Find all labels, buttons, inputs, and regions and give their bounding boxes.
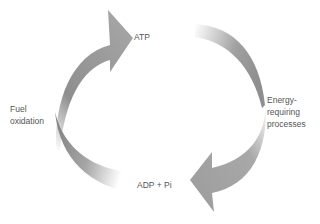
node-adp-pi: ADP + Pi (137, 179, 172, 191)
arc-bottom-left (55, 112, 132, 193)
node-fuel-oxidation: Fuel oxidation (10, 103, 44, 127)
label-line: requiring (267, 106, 306, 118)
arrow-down-right (190, 100, 266, 212)
label-line: oxidation (10, 115, 44, 127)
arrow-up-left (56, 10, 133, 150)
label-line: Fuel (10, 103, 44, 115)
node-energy-requiring: Energy- requiring processes (267, 94, 306, 130)
arc-top-right (195, 24, 265, 108)
node-atp: ATP (134, 31, 150, 43)
label-line: Energy- (267, 94, 306, 106)
label-line: processes (267, 118, 306, 130)
